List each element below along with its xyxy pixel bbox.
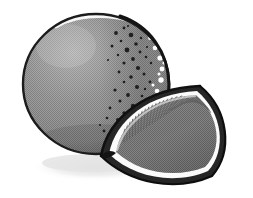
melon-speckle [118,71,121,74]
melon-speckle [106,117,109,120]
melon-speckle [150,62,152,64]
melon-speckle [123,81,126,84]
melon-illustration-svg: Melon and wedge slice Grayscale halftone… [0,0,253,198]
melon-speckle [107,59,109,61]
melon-speckle [141,95,144,98]
melon-speckle [146,46,148,48]
illustration-canvas: Melon and wedge slice Grayscale halftone… [0,0,253,198]
melon-speckle [127,25,129,27]
melon-speckle [129,75,133,79]
melon-speckle [143,73,146,76]
melon-speckle [134,42,138,46]
melon-rim-highlight [152,84,155,87]
melon-rim-highlight [158,73,161,76]
melon-specular-highlight [36,24,96,68]
melon-speckle [126,93,130,97]
melon-speckle [114,31,118,35]
melon-speckle [109,107,112,110]
melon-speckle [136,66,140,70]
melon-speckle [145,56,148,59]
melon-speckle [149,81,152,84]
melon-speckle [144,88,146,90]
melon-speckle [131,57,135,61]
melon-speckle [139,51,142,54]
melon-rim-highlight [158,77,163,82]
melon-speckle [123,27,126,30]
melon-speckle [113,88,116,91]
melon-speckle [117,54,119,56]
melon-speckle [119,100,122,103]
melon-speckle [129,33,134,38]
melon-speckle [122,61,125,64]
melon-speckle [120,40,123,43]
melon-speckle [140,37,142,39]
melon-speckle [135,85,139,89]
melon-speckle [125,48,130,53]
melon-rim-highlight [160,67,165,72]
melon-speckle [111,45,114,48]
